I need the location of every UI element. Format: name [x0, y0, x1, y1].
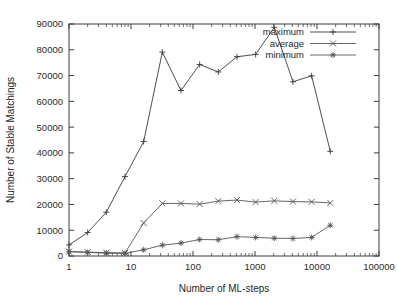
x-tick-label: 100000 — [363, 261, 395, 272]
y-tick-label: 40000 — [37, 147, 63, 158]
data-point-marker — [290, 235, 296, 241]
legend-label-average: average — [270, 38, 304, 49]
data-point-marker — [159, 49, 165, 55]
y-tick-label: 20000 — [37, 199, 63, 210]
data-point-marker — [141, 139, 147, 145]
data-point-marker — [290, 79, 296, 85]
data-point-marker — [178, 88, 184, 94]
y-tick-label: 60000 — [37, 96, 63, 107]
x-tick-label: 10000 — [304, 261, 330, 272]
y-tick-label: 70000 — [37, 70, 63, 81]
y-tick-label: 90000 — [37, 18, 63, 29]
legend-label-minimum: minimum — [265, 49, 304, 60]
data-point-marker — [271, 235, 277, 241]
data-point-marker — [215, 237, 221, 243]
data-point-marker — [85, 249, 91, 255]
y-tick-label: 80000 — [37, 44, 63, 55]
data-point-marker — [253, 51, 259, 57]
data-point-marker — [253, 234, 259, 240]
y-axis-title: Number of Stable Matchings — [5, 77, 16, 203]
data-point-marker — [327, 148, 333, 154]
x-axis-minor-ticks — [88, 24, 376, 256]
data-point-marker — [178, 240, 184, 246]
y-tick-label: 0 — [58, 250, 63, 261]
data-point-marker — [197, 61, 203, 67]
x-axis-title: Number of ML-steps — [179, 283, 270, 294]
x-axis-ticks: 110100100010000100000 — [66, 24, 395, 272]
data-point-marker — [197, 237, 203, 243]
x-tick-label: 1000 — [244, 261, 265, 272]
data-point-marker — [234, 234, 240, 240]
series-average — [66, 197, 333, 256]
data-point-marker — [122, 174, 128, 180]
data-point-marker — [141, 220, 147, 226]
series-minimum — [66, 222, 333, 256]
data-point-marker — [103, 250, 109, 256]
chart-legend: maximumaverageminimum — [263, 26, 356, 60]
y-tick-label: 50000 — [37, 122, 63, 133]
data-point-marker — [66, 249, 72, 255]
x-tick-label: 10 — [126, 261, 137, 272]
data-point-marker — [309, 73, 315, 79]
plot-frame — [69, 24, 379, 256]
y-tick-label: 10000 — [37, 225, 63, 236]
data-point-marker — [66, 242, 72, 248]
data-point-marker — [141, 247, 147, 253]
chart-container: 0100002000030000400005000060000700008000… — [0, 0, 397, 307]
line-chart: 0100002000030000400005000060000700008000… — [0, 0, 397, 307]
data-point-marker — [159, 242, 165, 248]
data-point-marker — [330, 29, 336, 35]
y-tick-label: 30000 — [37, 173, 63, 184]
x-tick-label: 1 — [66, 261, 71, 272]
x-tick-label: 100 — [185, 261, 201, 272]
data-point-marker — [309, 234, 315, 240]
legend-label-maximum: maximum — [263, 26, 304, 37]
data-point-marker — [327, 222, 333, 228]
data-point-marker — [330, 52, 336, 58]
data-point-marker — [122, 250, 128, 256]
